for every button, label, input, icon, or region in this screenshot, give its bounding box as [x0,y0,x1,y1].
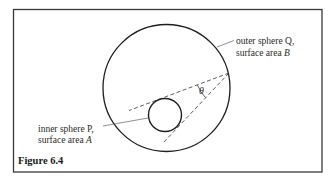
outer-sphere-label-line2: surface area B [236,48,290,58]
inner-sphere-leader-line [103,118,148,126]
inner-sphere-p [149,99,182,132]
inner-sphere-label-line2: surface area A [38,135,92,145]
lower-tangent-dashed-line [163,73,229,143]
inner-sphere-label-line1: inner sphere P, [38,124,94,134]
outer-sphere-leader-line [217,41,234,48]
figure-frame [14,10,323,173]
outer-sphere-q [103,25,230,152]
outer-sphere-area-var: B [284,48,290,58]
inner-sphere-label-prefix: surface area [38,135,86,145]
inner-sphere-area-var: A [85,135,92,145]
outer-sphere-label-prefix: surface area [236,48,284,58]
outer-sphere-label-line1: outer sphere Q, [236,36,294,46]
upper-tangent-dashed-line [129,73,229,111]
figure-caption: Figure 6.4 [18,155,64,166]
theta-label: θ [199,85,204,96]
figure-6-4-diagram: θ outer sphere Q, surface area B inner s… [0,0,331,180]
